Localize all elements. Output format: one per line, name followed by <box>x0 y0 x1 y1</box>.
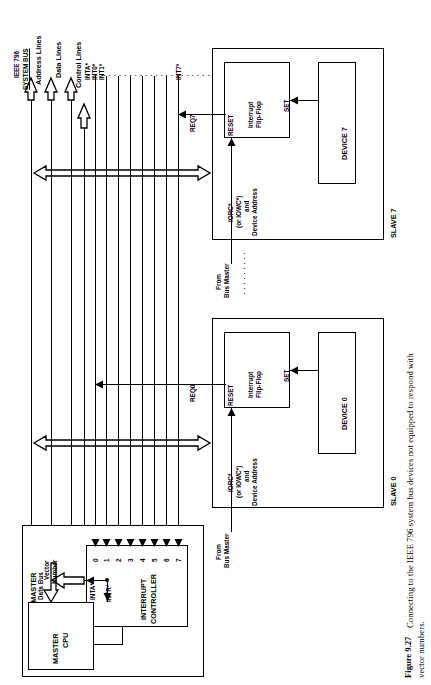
data-bus-label: Data Bus <box>38 572 44 600</box>
data-bus-arrow <box>0 0 431 685</box>
figure-caption-line2: vector numbers. <box>415 621 427 678</box>
